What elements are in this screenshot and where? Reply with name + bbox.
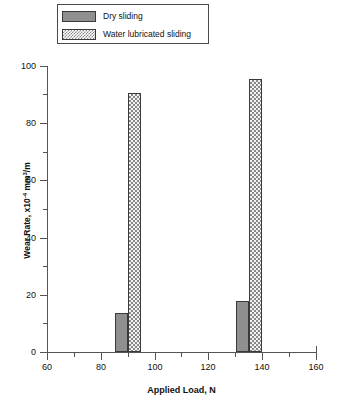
chart-legend: Dry sliding Water lubricated sliding [57, 4, 209, 44]
x-tick-major [316, 353, 317, 360]
y-tick-major [40, 295, 47, 296]
y-tick-minor [43, 152, 47, 153]
y-tick-major [40, 238, 47, 239]
x-tick-label: 160 [296, 363, 336, 372]
y-tick-major [40, 180, 47, 181]
legend-item-dry-sliding: Dry sliding [62, 8, 204, 24]
y-tick-major [40, 123, 47, 124]
x-tick-label: 120 [188, 363, 228, 372]
bar-water-lubricated-sliding-135n [249, 79, 262, 352]
y-axis-line [47, 66, 48, 353]
y-axis-title-prefix: Wear Rate, x10 [22, 198, 32, 258]
bar-water-lubricated-sliding-90n [128, 93, 141, 352]
legend-item-water-lubricated-sliding: Water lubricated sliding [62, 26, 204, 42]
x-tick-minor [74, 353, 75, 357]
y-axis-title-suffix-exponent: 3 [22, 172, 28, 175]
legend-label-water-lubricated-sliding: Water lubricated sliding [103, 29, 191, 39]
y-tick-label: 0 [6, 348, 36, 357]
y-axis-title: Wear Rate, x10-4 mm3/m [22, 130, 33, 290]
y-tick-minor [43, 94, 47, 95]
y-tick-minor [43, 323, 47, 324]
y-tick-major [40, 66, 47, 67]
bar-dry-sliding-135n [236, 301, 249, 352]
legend-swatch-solid-gray-icon [62, 11, 96, 22]
x-tick-minor [235, 353, 236, 357]
y-tick-label: 20 [6, 291, 36, 300]
y-axis-title-tail: /m [22, 162, 32, 172]
x-tick-major [101, 353, 102, 360]
bar-dry-sliding-90n [115, 313, 128, 352]
x-tick-major [155, 353, 156, 360]
x-tick-label: 140 [242, 363, 282, 372]
y-axis-title-suffix: mm [22, 175, 32, 192]
y-tick-minor [43, 266, 47, 267]
x-axis-end-cap [316, 346, 317, 353]
x-tick-minor [128, 353, 129, 357]
x-tick-minor [181, 353, 182, 357]
legend-swatch-checkered-icon [62, 29, 96, 40]
x-axis-title: Applied Load, N [47, 385, 316, 395]
x-tick-label: 60 [27, 363, 67, 372]
x-tick-minor [289, 353, 290, 357]
x-tick-major [47, 353, 48, 360]
y-tick-major [40, 352, 47, 353]
wear-rate-bar-chart: Dry sliding Water lubricated sliding 0 2… [0, 0, 339, 406]
x-tick-label: 100 [135, 363, 175, 372]
x-tick-label: 80 [81, 363, 121, 372]
y-tick-label: 100 [6, 62, 36, 71]
y-axis-title-exponent: -4 [22, 193, 28, 198]
y-tick-minor [43, 209, 47, 210]
legend-label-dry-sliding: Dry sliding [103, 11, 143, 21]
x-tick-major [208, 353, 209, 360]
y-tick-label: 80 [6, 119, 36, 128]
x-tick-major [262, 353, 263, 360]
